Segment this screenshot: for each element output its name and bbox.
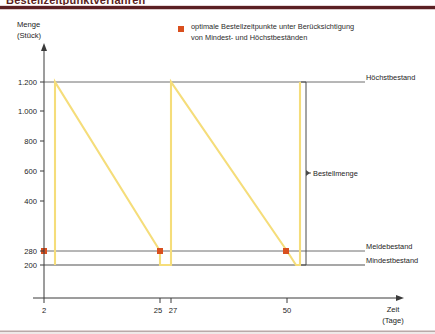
y-tick-label: 800 bbox=[24, 137, 37, 146]
bestellmenge-bracket bbox=[301, 82, 311, 265]
y-axis-title-line2: (Stück) bbox=[17, 31, 42, 40]
x-tick-label: 27 bbox=[169, 306, 177, 315]
chart-page: Bestellzeitpunktverfahren optimale Beste… bbox=[0, 0, 435, 334]
label-meldebestand: Meldebestand bbox=[366, 242, 412, 251]
x-tick-label: 2 bbox=[42, 306, 46, 315]
label-mindestbestand: Mindestbestand bbox=[366, 256, 418, 265]
order-point-marker bbox=[157, 248, 163, 254]
y-axis-arrow bbox=[41, 43, 47, 51]
label-bestellmenge: Bestellmenge bbox=[313, 169, 358, 178]
x-tick-label: 50 bbox=[283, 306, 291, 315]
x-axis-arrow bbox=[396, 295, 404, 301]
series-lagerbestand bbox=[55, 82, 300, 265]
y-tick-label: 600 bbox=[24, 167, 37, 176]
y-tick-label: 280 bbox=[24, 247, 37, 256]
x-axis-title-line2: (Tage) bbox=[382, 316, 404, 325]
y-tick-label: 1.200 bbox=[18, 78, 37, 87]
order-point-marker bbox=[283, 248, 289, 254]
y-axis-title-line1: Menge bbox=[17, 20, 40, 29]
chart-plot-area: 1.200 1.000 800 600 400 280 200 Menge (S… bbox=[0, 0, 435, 334]
chart-svg: 1.200 1.000 800 600 400 280 200 Menge (S… bbox=[0, 0, 435, 334]
label-hoechstbestand: Höchstbestand bbox=[366, 73, 415, 82]
y-tick-label: 400 bbox=[24, 197, 37, 206]
y-tick-label: 1.000 bbox=[18, 107, 37, 116]
x-axis bbox=[33, 295, 404, 303]
y-axis bbox=[40, 43, 47, 298]
x-axis-title-line1: Zeit bbox=[387, 305, 401, 314]
bottom-divider bbox=[0, 330, 435, 334]
x-tick-label: 25 bbox=[154, 306, 162, 315]
y-tick-label: 200 bbox=[24, 261, 37, 270]
